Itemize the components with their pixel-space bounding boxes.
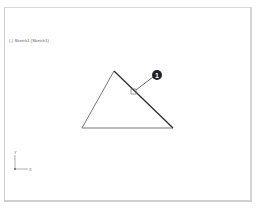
leader-line [136, 77, 153, 90]
callout-number: 1 [155, 72, 159, 79]
triangle-sketch[interactable] [82, 71, 173, 128]
sketch-canvas: 1 Y X [0, 0, 260, 209]
triad-x-label: X [29, 167, 32, 172]
callout-1: 1 [131, 70, 162, 94]
triad-y-label: Y [14, 150, 17, 155]
left-edge[interactable] [82, 71, 114, 128]
right-edge-selected[interactable] [114, 71, 173, 128]
coordinate-triad-icon: Y X [14, 150, 32, 172]
